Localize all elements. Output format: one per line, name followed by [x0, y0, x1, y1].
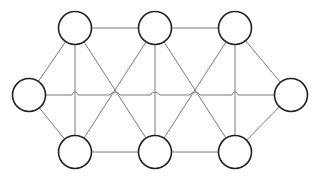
node-n6	[59, 136, 92, 169]
nodes	[13, 12, 308, 169]
edge-n4-n5	[29, 92, 291, 96]
node-n7	[139, 136, 172, 169]
node-n8	[219, 136, 252, 169]
node-n4	[13, 79, 46, 112]
node-n2	[139, 12, 172, 45]
edges	[29, 28, 291, 152]
node-n5	[275, 79, 308, 112]
node-n1	[59, 12, 92, 45]
node-n3	[219, 12, 252, 45]
graph-diagram	[0, 0, 318, 179]
